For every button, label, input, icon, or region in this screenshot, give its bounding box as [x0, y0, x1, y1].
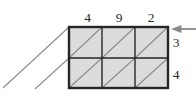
- diagram-canvas: 4 9 2 3 4: [0, 0, 196, 96]
- top-digit: 4: [84, 10, 91, 25]
- left-arrow-icon: [171, 25, 196, 33]
- right-digits: 3 4: [173, 35, 180, 82]
- extended-diagonal-line: [3, 27, 69, 88]
- top-digit: 2: [148, 10, 155, 25]
- top-digit: 9: [116, 10, 123, 25]
- right-digit: 3: [173, 35, 180, 50]
- extended-diagonal-line: [35, 58, 69, 89]
- lattice-diagram: 4 9 2 3 4: [0, 0, 196, 96]
- arrow-head: [171, 25, 182, 33]
- right-digit: 4: [173, 67, 180, 82]
- top-digits: 4 9 2: [84, 10, 154, 25]
